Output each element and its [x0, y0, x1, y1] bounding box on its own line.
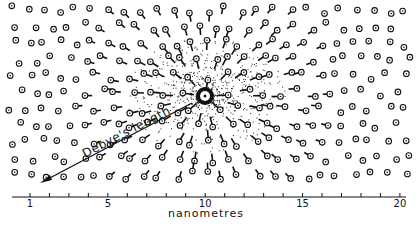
ion: [96, 25, 105, 32]
ion: [225, 151, 231, 163]
ion: [13, 37, 19, 43]
ion: [366, 38, 372, 44]
ion: [185, 74, 195, 85]
axis-tick-label: 20: [394, 198, 407, 209]
ion: [367, 169, 373, 175]
ion: [142, 155, 151, 164]
axis-tick-label: 15: [296, 198, 309, 209]
ion: [378, 93, 384, 99]
ion: [140, 135, 150, 143]
ion: [41, 136, 47, 142]
ion: [78, 174, 84, 180]
ion: [42, 7, 48, 13]
ion: [289, 86, 300, 92]
ion: [338, 110, 344, 116]
ion: [30, 158, 36, 164]
ion: [286, 54, 296, 60]
ion: [276, 104, 288, 110]
ion: [386, 138, 392, 144]
ion: [358, 86, 364, 92]
ion: [266, 36, 275, 44]
ion: [240, 10, 246, 20]
ion: [106, 40, 116, 46]
ion: [51, 26, 57, 32]
ion: [73, 77, 79, 83]
ion: [350, 104, 356, 110]
ion: [177, 118, 187, 129]
ion: [368, 77, 374, 83]
ion: [220, 135, 227, 147]
ion: [58, 37, 64, 43]
debye-length-diagram: Debye's length 15101520 nanometres: [0, 0, 418, 229]
ion: [335, 5, 341, 11]
ion: [284, 70, 295, 76]
ion: [237, 54, 247, 64]
ion: [244, 154, 252, 164]
ion: [22, 137, 28, 143]
ion: [226, 26, 232, 38]
ion: [82, 93, 92, 99]
ion: [250, 105, 262, 111]
ion: [196, 113, 202, 126]
ion: [10, 142, 16, 148]
ion: [39, 40, 45, 46]
ion: [393, 120, 399, 126]
ion: [132, 90, 144, 96]
ion: [61, 174, 67, 180]
ion: [63, 25, 69, 31]
ion: [389, 103, 395, 109]
ion: [350, 71, 356, 77]
ion: [107, 172, 115, 179]
ion: [303, 4, 309, 10]
ion: [46, 92, 52, 98]
ion: [148, 59, 159, 67]
ion: [27, 6, 33, 12]
ion: [91, 108, 101, 114]
ion: [204, 38, 210, 51]
ion: [160, 44, 169, 54]
ion: [261, 150, 270, 159]
ion: [218, 171, 224, 182]
ion: [321, 123, 331, 129]
ion: [323, 91, 333, 97]
ion: [350, 39, 356, 45]
ion: [364, 137, 370, 143]
ion: [34, 61, 40, 67]
ion: [317, 43, 326, 49]
ion: [83, 20, 89, 26]
ion: [58, 10, 64, 16]
ion: [395, 89, 401, 95]
ion: [141, 71, 153, 77]
ion: [159, 150, 167, 160]
ion: [289, 124, 300, 130]
ion: [85, 59, 95, 65]
ion: [252, 6, 259, 16]
ion: [261, 72, 273, 78]
ion: [127, 76, 139, 82]
axis-tick-label: 5: [105, 198, 111, 209]
ion: [387, 57, 393, 63]
ion: [232, 44, 240, 55]
ion: [394, 157, 400, 163]
ion: [33, 25, 39, 31]
ion: [207, 10, 213, 22]
ion: [297, 40, 306, 46]
ion: [38, 105, 44, 111]
ion: [341, 88, 347, 94]
ion: [212, 102, 223, 112]
ion: [387, 39, 393, 45]
ion: [127, 153, 136, 161]
ion: [153, 70, 165, 77]
ion: [323, 20, 329, 26]
ion: [260, 20, 268, 29]
ion: [154, 6, 161, 16]
ion: [316, 72, 326, 78]
ion: [346, 153, 352, 159]
ion: [405, 171, 411, 177]
ion: [148, 89, 161, 95]
ion: [403, 138, 409, 144]
ion: [407, 54, 413, 60]
ion: [135, 58, 146, 65]
ion: [153, 171, 160, 181]
ion: [226, 117, 236, 127]
